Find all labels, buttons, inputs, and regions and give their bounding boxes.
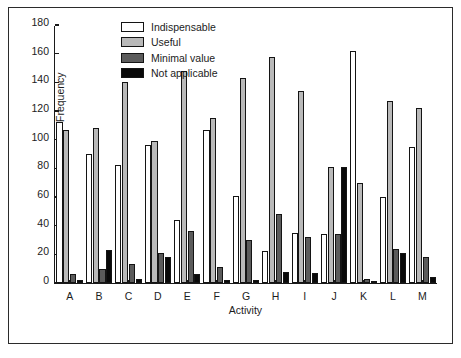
- bar[interactable]: [292, 233, 298, 283]
- bar[interactable]: [174, 220, 180, 283]
- x-axis-tick-label: B: [84, 290, 113, 302]
- x-axis-tick-label: A: [55, 290, 84, 302]
- bar[interactable]: [276, 214, 282, 283]
- bar[interactable]: [224, 280, 230, 283]
- bar[interactable]: [298, 91, 304, 283]
- bar[interactable]: [240, 78, 246, 283]
- x-axis-tick-mark: [187, 280, 188, 284]
- bar-group: A: [55, 26, 84, 283]
- bar-group: J: [320, 26, 349, 283]
- x-axis-tick-mark: [334, 280, 335, 284]
- x-axis-tick-mark: [245, 280, 246, 284]
- x-axis-tick-label: F: [202, 290, 231, 302]
- bar[interactable]: [371, 281, 377, 283]
- bar[interactable]: [203, 130, 209, 283]
- bar[interactable]: [380, 197, 386, 283]
- y-axis-tick-label: 40: [37, 218, 49, 229]
- x-axis-tick-mark: [275, 280, 276, 284]
- bar[interactable]: [253, 280, 259, 283]
- bar[interactable]: [194, 274, 200, 283]
- bar-group: K: [349, 26, 378, 283]
- bar[interactable]: [393, 249, 399, 283]
- legend-item[interactable]: Not applicable: [121, 66, 218, 82]
- x-axis-tick-mark: [98, 280, 99, 284]
- bar-group: L: [378, 26, 407, 283]
- bar[interactable]: [129, 264, 135, 283]
- bar[interactable]: [99, 269, 105, 283]
- x-axis-tick-mark: [363, 280, 364, 284]
- bar[interactable]: [416, 108, 422, 283]
- bar[interactable]: [262, 251, 268, 283]
- bar[interactable]: [145, 145, 151, 283]
- chart-figure: 020406080100120140160180 Frequency ABCDE…: [8, 7, 453, 344]
- bar[interactable]: [181, 71, 187, 283]
- bar-group: I: [290, 26, 319, 283]
- bar[interactable]: [321, 234, 327, 283]
- bar[interactable]: [430, 277, 436, 283]
- x-axis-tick-label: E: [173, 290, 202, 302]
- x-axis-label: Activity: [54, 304, 437, 316]
- x-axis-tick-label: G: [231, 290, 260, 302]
- bar[interactable]: [400, 253, 406, 283]
- x-axis-tick-label: D: [143, 290, 172, 302]
- legend-swatch: [121, 68, 144, 78]
- legend-swatch: [121, 22, 144, 32]
- bar[interactable]: [283, 272, 289, 283]
- y-axis-tick-label: 180: [31, 17, 49, 28]
- y-axis-tick-label: 120: [31, 103, 49, 114]
- chart-legend: IndispensableUsefulMinimal valueNot appl…: [121, 19, 218, 81]
- x-axis-tick-mark: [422, 280, 423, 284]
- y-axis-tick-label: 20: [37, 246, 49, 257]
- bar[interactable]: [217, 267, 223, 283]
- legend-item[interactable]: Indispensable: [121, 19, 218, 35]
- x-axis-tick-label: H: [261, 290, 290, 302]
- bar[interactable]: [328, 167, 334, 283]
- bar[interactable]: [357, 183, 363, 283]
- bar[interactable]: [56, 122, 62, 283]
- bar[interactable]: [233, 196, 239, 283]
- bar-group: M: [408, 26, 437, 283]
- bar[interactable]: [165, 257, 171, 283]
- bar[interactable]: [423, 257, 429, 283]
- y-axis-tick-label: 0: [43, 275, 49, 286]
- bar[interactable]: [246, 240, 252, 283]
- bar[interactable]: [188, 231, 194, 283]
- bar[interactable]: [115, 165, 121, 283]
- x-axis-tick-mark: [69, 280, 70, 284]
- bar[interactable]: [305, 237, 311, 283]
- bar[interactable]: [93, 128, 99, 283]
- bar[interactable]: [341, 167, 347, 283]
- bar[interactable]: [158, 253, 164, 283]
- y-axis-tick-label: 80: [37, 160, 49, 171]
- bar[interactable]: [63, 130, 69, 283]
- bar[interactable]: [350, 51, 356, 283]
- y-axis-tick-label: 140: [31, 74, 49, 85]
- bar[interactable]: [409, 147, 415, 283]
- bar[interactable]: [335, 234, 341, 283]
- bar[interactable]: [106, 250, 112, 283]
- bar[interactable]: [387, 101, 393, 283]
- legend-item[interactable]: Minimal value: [121, 50, 218, 66]
- y-axis-tick-label: 160: [31, 46, 49, 57]
- legend-label: Useful: [151, 36, 181, 48]
- x-axis-tick-mark: [128, 280, 129, 284]
- bar[interactable]: [122, 82, 128, 283]
- x-axis-tick-mark: [392, 280, 393, 284]
- bar[interactable]: [70, 274, 76, 283]
- legend-label: Not applicable: [151, 67, 218, 79]
- legend-swatch: [121, 37, 144, 47]
- bar[interactable]: [77, 280, 83, 283]
- legend-item[interactable]: Useful: [121, 35, 218, 51]
- bar[interactable]: [86, 154, 92, 283]
- y-axis-tick-label: 60: [37, 189, 49, 200]
- legend-label: Indispensable: [151, 21, 216, 33]
- bar[interactable]: [312, 273, 318, 283]
- bar[interactable]: [210, 118, 216, 283]
- x-axis-tick-mark: [216, 280, 217, 284]
- x-axis-tick-label: C: [114, 290, 143, 302]
- x-axis-tick-label: J: [320, 290, 349, 302]
- bar[interactable]: [151, 141, 157, 283]
- bar[interactable]: [364, 279, 370, 283]
- bar[interactable]: [269, 57, 275, 283]
- bar[interactable]: [136, 279, 142, 283]
